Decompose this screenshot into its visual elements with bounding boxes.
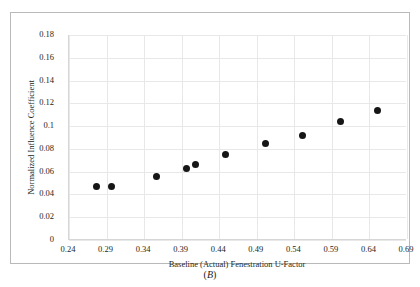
y-tick-label: 0 <box>11 235 54 244</box>
y-axis-title: Normalized Influence Coefficient <box>25 35 37 240</box>
gridline-horizontal <box>69 103 406 104</box>
scatter-point <box>93 183 100 190</box>
panel-caption: (B) <box>0 268 420 281</box>
y-tick-label: 0.04 <box>11 189 54 198</box>
y-tick-label: 0.08 <box>11 144 54 153</box>
y-tick-label: 0.1 <box>11 121 54 130</box>
gridline-vertical <box>332 35 333 239</box>
scatter-point <box>222 151 229 158</box>
gridline-vertical <box>369 35 370 239</box>
scatter-point <box>374 107 381 114</box>
gridline-vertical <box>219 35 220 239</box>
gridline-vertical <box>182 35 183 239</box>
scatter-point <box>337 118 344 125</box>
x-tick-label: 0.64 <box>348 245 388 254</box>
x-tick-label: 0.54 <box>273 245 313 254</box>
y-tick-label: 0.02 <box>11 212 54 221</box>
gridline-horizontal <box>69 194 406 195</box>
scatter-point <box>108 183 115 190</box>
figure-container: Normalized Influence Coefficient 00.020.… <box>0 0 420 287</box>
panel-caption-letter: B <box>207 269 213 280</box>
x-tick-label: 0.39 <box>161 245 201 254</box>
x-tick-label: 0.69 <box>386 245 420 254</box>
x-tick-label: 0.24 <box>48 245 88 254</box>
x-tick-label: 0.29 <box>86 245 126 254</box>
gridline-vertical <box>69 35 70 239</box>
gridline-horizontal <box>69 58 406 59</box>
gridline-horizontal <box>69 240 406 241</box>
x-tick-label: 0.34 <box>123 245 163 254</box>
y-tick-label: 0.14 <box>11 76 54 85</box>
gridline-horizontal <box>69 217 406 218</box>
y-tick-label: 0.16 <box>11 53 54 62</box>
gridline-vertical <box>107 35 108 239</box>
x-tick-label: 0.49 <box>236 245 276 254</box>
plot-area <box>68 35 406 240</box>
y-tick-label: 0.06 <box>11 167 54 176</box>
gridline-horizontal <box>69 81 406 82</box>
y-tick-label: 0.18 <box>11 30 54 39</box>
gridline-horizontal <box>69 172 406 173</box>
gridline-vertical <box>407 35 408 239</box>
scatter-point <box>262 140 269 147</box>
gridline-horizontal <box>69 149 406 150</box>
gridline-vertical <box>257 35 258 239</box>
y-tick-label: 0.12 <box>11 98 54 107</box>
gridline-horizontal <box>69 35 406 36</box>
x-tick-label: 0.59 <box>311 245 351 254</box>
x-tick-label: 0.44 <box>198 245 238 254</box>
scatter-point <box>153 173 160 180</box>
gridline-vertical <box>294 35 295 239</box>
figure-border-box: Normalized Influence Coefficient 00.020.… <box>10 12 410 264</box>
gridline-horizontal <box>69 126 406 127</box>
scatter-point <box>192 161 199 168</box>
gridline-vertical <box>144 35 145 239</box>
scatter-point <box>299 132 306 139</box>
